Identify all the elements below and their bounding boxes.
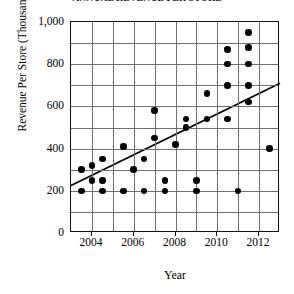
x-tick-label: 2004: [69, 236, 113, 248]
chart-title: ANNUAL REVENUE PER STORE: [0, 0, 294, 4]
data-point: [99, 177, 106, 184]
scatter-chart-figure: ANNUAL REVENUE PER STORE Revenue Per Sto…: [0, 0, 294, 294]
data-point: [183, 124, 190, 131]
gridline-vertical: [113, 22, 114, 231]
data-point: [245, 44, 252, 51]
data-point: [193, 177, 200, 184]
y-tick-label: 600: [8, 99, 64, 111]
gridline-vertical: [155, 22, 156, 231]
x-tick-label: 2006: [111, 236, 155, 248]
data-point: [99, 188, 106, 195]
gridline-horizontal: [71, 106, 278, 107]
plot-area: [70, 21, 279, 232]
gridline-vertical: [92, 22, 93, 231]
data-point: [172, 141, 179, 148]
x-tick-mark: [216, 232, 217, 236]
x-tick-mark: [175, 232, 176, 236]
gridline-horizontal: [71, 128, 278, 129]
y-tick-label: 400: [8, 142, 64, 154]
gridline-vertical: [217, 22, 218, 231]
data-point: [151, 107, 158, 114]
data-point: [245, 82, 252, 89]
x-tick-label: 2008: [153, 236, 197, 248]
gridline-vertical: [238, 22, 239, 231]
y-tick-label: 0: [8, 226, 64, 238]
gridline-vertical: [259, 22, 260, 231]
x-tick-label: 2010: [194, 236, 238, 248]
data-point: [204, 90, 211, 97]
data-point: [89, 177, 96, 184]
data-point: [78, 188, 85, 195]
y-tick-label: 800: [8, 57, 64, 69]
data-point: [120, 143, 127, 150]
data-point: [120, 188, 127, 195]
data-point: [224, 82, 231, 89]
gridline-horizontal: [71, 170, 278, 171]
x-tick-mark: [133, 232, 134, 236]
data-point: [130, 166, 137, 173]
data-point: [78, 166, 85, 173]
x-tick-mark: [91, 232, 92, 236]
data-point: [162, 177, 169, 184]
x-tick-mark: [258, 232, 259, 236]
data-point: [193, 188, 200, 195]
gridline-horizontal: [71, 149, 278, 150]
y-tick-label: 200: [8, 184, 64, 196]
data-point: [89, 162, 96, 169]
x-axis-label: Year: [70, 268, 280, 283]
gridline-vertical: [176, 22, 177, 231]
gridline-vertical: [134, 22, 135, 231]
y-tick-label: 1,000: [8, 15, 64, 27]
gridline-horizontal: [71, 212, 278, 213]
data-point: [99, 156, 106, 163]
x-tick-label: 2012: [236, 236, 280, 248]
gridline-vertical: [196, 22, 197, 231]
data-point: [245, 29, 252, 36]
trend-line: [71, 22, 278, 231]
data-point: [266, 145, 273, 152]
data-point: [224, 46, 231, 53]
